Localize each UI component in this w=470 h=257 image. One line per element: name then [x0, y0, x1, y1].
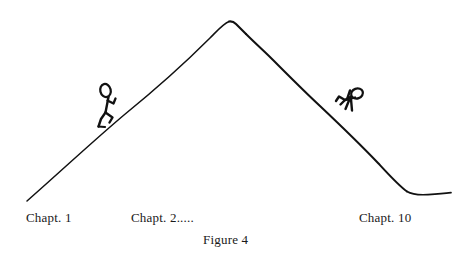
climbing-stick-figure — [99, 83, 116, 127]
mountain-tail-path — [407, 192, 451, 195]
faller-leg-back — [346, 101, 350, 110]
falling-stick-figure — [336, 87, 364, 111]
chapter-label-middle: Chapt. 2..... — [131, 210, 194, 226]
mountain-descent-path — [246, 34, 407, 192]
faller-leg-front — [351, 99, 352, 111]
climber-back-leg — [99, 113, 106, 127]
mountain-ascent-path — [27, 22, 229, 202]
chapter-label-right: Chapt. 10 — [359, 210, 411, 226]
climber-torso — [106, 97, 109, 113]
chapter-label-left: Chapt. 1 — [26, 210, 72, 226]
climber-head — [99, 83, 112, 98]
climber-front-leg — [106, 113, 113, 123]
figure-caption: Figure 4 — [203, 232, 248, 248]
figure-container: Chapt. 1 Chapt. 2..... Chapt. 10 Figure … — [0, 0, 470, 257]
mountain-curve — [27, 21, 451, 201]
mountain-peak-path — [229, 21, 246, 34]
climber-back-foot — [99, 127, 106, 128]
